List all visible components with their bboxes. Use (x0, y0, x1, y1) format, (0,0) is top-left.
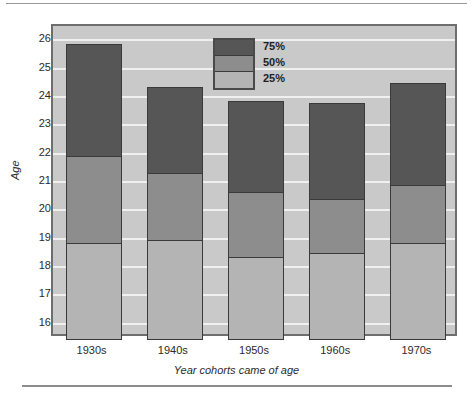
bar-segment (147, 240, 203, 340)
y-axis-tick-label: 21 (21, 174, 51, 186)
x-axis-tick-label: 1970s (401, 344, 431, 356)
legend: 75%50%25% (213, 38, 285, 90)
y-axis-tick-label: 16 (21, 316, 51, 328)
y-axis-tick-label: 20 (21, 202, 51, 214)
x-axis-title: Year cohorts came of age (0, 364, 473, 376)
y-axis-tick-label: 26 (21, 32, 51, 44)
legend-swatch (215, 72, 253, 88)
y-axis-tick-label: 25 (21, 61, 51, 73)
legend-label: 25% (263, 70, 285, 86)
y-axis-tick-label: 17 (21, 287, 51, 299)
y-axis-tick-label: 24 (21, 89, 51, 101)
y-axis-tick-label: 18 (21, 259, 51, 271)
bar-segment (309, 253, 365, 340)
x-axis-tick-label: 1950s (239, 344, 269, 356)
legend-swatch (215, 56, 253, 72)
y-axis-title: Age (9, 160, 21, 180)
bottom-divider-rule (22, 385, 452, 387)
x-axis-tick-label: 1930s (77, 344, 107, 356)
y-axis-tick-label: 19 (21, 231, 51, 243)
y-axis-tick-label: 23 (21, 117, 51, 129)
bar-group (390, 26, 446, 338)
stacked-bar-chart: 1617181920212223242526 Age 1930s1940s195… (0, 0, 473, 399)
x-axis-tick-label: 1960s (320, 344, 350, 356)
x-axis-tick-label: 1940s (158, 344, 188, 356)
bar-segment (390, 243, 446, 340)
legend-swatches (213, 38, 255, 90)
bar-segment (228, 257, 284, 340)
bar-group (147, 26, 203, 338)
legend-label: 50% (263, 54, 285, 70)
bar-group (309, 26, 365, 338)
bar-group (66, 26, 122, 338)
y-axis-tick-label: 22 (21, 146, 51, 158)
legend-label: 75% (263, 38, 285, 54)
legend-swatch (215, 40, 253, 56)
legend-labels: 75%50%25% (263, 38, 285, 86)
bar-segment (66, 243, 122, 340)
